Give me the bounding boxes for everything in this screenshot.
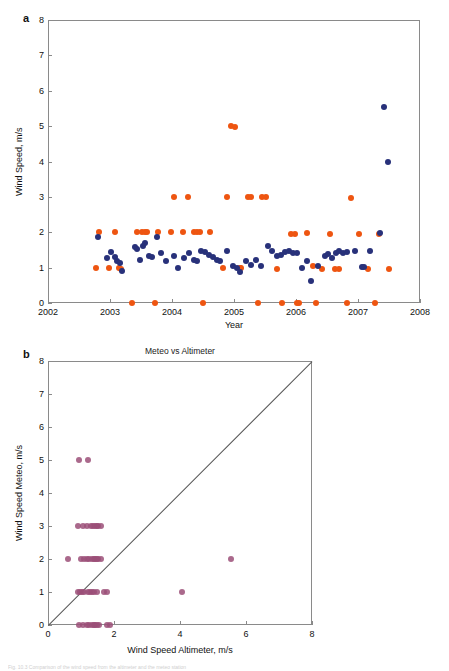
y-tick-label: 1: [39, 263, 48, 273]
data-point: [296, 300, 302, 306]
figure-container: a Wind Speed, m/s Year 01234567820022003…: [0, 0, 449, 671]
data-point: [237, 269, 243, 275]
data-point: [313, 300, 319, 306]
data-point: [197, 229, 203, 235]
data-point: [106, 265, 112, 271]
panel-b: b Meteo vs Altimeter Wind Speed Meteo, m…: [0, 340, 449, 671]
data-point: [292, 231, 298, 237]
x-tick-label: 4: [177, 629, 182, 639]
data-point: [117, 260, 123, 266]
x-tick-label: 2007: [348, 307, 368, 317]
panel-b-y-axis-title: Wind Speed Meteo, m/s: [14, 445, 24, 541]
data-point: [85, 457, 91, 463]
panel-b-title: Meteo vs Altimeter: [0, 346, 360, 356]
x-tick-mark: [114, 621, 115, 625]
data-point: [185, 194, 191, 200]
y-tick-mark: [48, 493, 52, 494]
y-tick-mark: [48, 126, 52, 127]
x-tick-label: 2006: [286, 307, 306, 317]
data-point: [98, 523, 104, 529]
x-tick-label: 2003: [100, 307, 120, 317]
data-point: [181, 255, 187, 261]
data-point: [352, 248, 358, 254]
y-tick-mark: [48, 592, 52, 593]
data-point: [304, 258, 310, 264]
x-tick-mark: [172, 299, 173, 303]
data-point: [381, 104, 387, 110]
data-point: [315, 263, 321, 269]
data-point: [224, 194, 230, 200]
data-point: [93, 265, 99, 271]
x-tick-mark: [246, 621, 247, 625]
data-point: [248, 262, 254, 268]
data-point: [149, 254, 155, 260]
data-point: [304, 230, 310, 236]
data-point: [163, 258, 169, 264]
y-tick-mark: [48, 20, 52, 21]
x-tick-label: 2002: [38, 307, 58, 317]
data-point: [367, 248, 373, 254]
data-point: [94, 589, 100, 595]
data-point: [180, 229, 186, 235]
y-tick-mark: [48, 91, 52, 92]
y-tick-label: 8: [39, 15, 48, 25]
panel-a: a Wind Speed, m/s Year 01234567820022003…: [0, 0, 449, 340]
y-tick-label: 5: [39, 121, 48, 131]
y-tick-label: 1: [39, 587, 48, 597]
data-point: [179, 589, 185, 595]
data-point: [294, 250, 300, 256]
data-point: [348, 195, 354, 201]
data-point: [258, 263, 264, 269]
data-point: [154, 234, 160, 240]
panel-a-plot-area: [48, 20, 420, 303]
data-point: [299, 265, 305, 271]
y-tick-mark: [48, 526, 52, 527]
data-point: [168, 229, 174, 235]
data-point: [361, 264, 367, 270]
x-tick-label: 2004: [162, 307, 182, 317]
y-tick-mark: [48, 361, 52, 362]
y-tick-label: 8: [39, 356, 48, 366]
panel-a-letter: a: [23, 12, 29, 24]
data-point: [200, 300, 206, 306]
y-tick-label: 7: [39, 389, 48, 399]
figure-caption: Fig. 10.3 Comparison of the wind speed f…: [8, 664, 441, 670]
x-tick-label: 2005: [224, 307, 244, 317]
data-point: [372, 300, 378, 306]
data-point: [96, 622, 102, 628]
data-point: [158, 250, 164, 256]
y-tick-label: 3: [39, 521, 48, 531]
y-tick-label: 4: [39, 157, 48, 167]
data-point: [385, 159, 391, 165]
y-tick-mark: [48, 303, 52, 304]
data-point: [129, 300, 135, 306]
data-point: [152, 300, 158, 306]
data-point: [232, 124, 238, 130]
data-point: [248, 194, 254, 200]
y-tick-mark: [48, 162, 52, 163]
data-point: [76, 457, 82, 463]
data-point: [65, 556, 71, 562]
data-point: [119, 268, 125, 274]
x-tick-label: 2: [111, 629, 116, 639]
data-point: [336, 266, 342, 272]
data-point: [344, 300, 350, 306]
data-point: [171, 194, 177, 200]
data-point: [207, 229, 213, 235]
y-tick-mark: [48, 460, 52, 461]
data-point: [171, 253, 177, 259]
data-point: [228, 556, 234, 562]
y-tick-mark: [48, 427, 52, 428]
x-tick-label: 8: [309, 629, 314, 639]
x-tick-mark: [420, 299, 421, 303]
data-point: [217, 258, 223, 264]
x-tick-label: 0: [45, 629, 50, 639]
data-point: [263, 194, 269, 200]
y-tick-mark: [48, 559, 52, 560]
data-point: [327, 231, 333, 237]
x-tick-mark: [110, 299, 111, 303]
data-point: [279, 300, 285, 306]
data-point: [224, 248, 230, 254]
data-point: [274, 266, 280, 272]
data-point: [255, 300, 261, 306]
